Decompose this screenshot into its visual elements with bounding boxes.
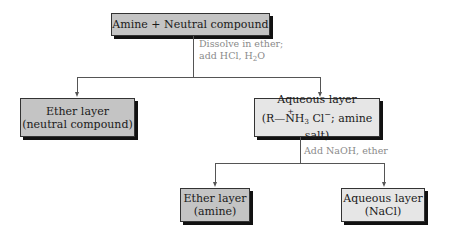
left2-line1: Ether layer <box>184 192 247 205</box>
step1-line2: add HCl, H2O <box>199 50 283 65</box>
root-box-amine-neutral: Amine + Neutral compound <box>111 13 270 36</box>
step2-note: Add NaOH, ether <box>304 145 388 157</box>
right2-line1: Aqueous layer <box>343 192 423 205</box>
connector-right1-down <box>300 137 301 163</box>
ether-layer-amine-box: Ether layer (amine) <box>180 188 250 222</box>
connector-root-down <box>193 36 194 77</box>
right2-line2: (NaCl) <box>365 205 402 218</box>
connector-left1-drop <box>77 77 78 93</box>
step1-note: Dissolve in ether; add HCl, H2O <box>199 38 283 65</box>
arrow-to-left1 <box>75 92 79 97</box>
connector-left2-drop <box>215 163 216 183</box>
root-label: Amine + Neutral compound <box>112 18 268 31</box>
arrow-to-left2 <box>213 182 217 187</box>
aqueous-layer-amine-salt-box: Aqueous layer (R—+NH3 Cl−; amine salt) <box>254 98 380 137</box>
left1-line1: Ether layer <box>46 105 109 118</box>
right1-formula: (R—+NH3 Cl−; amine salt) <box>255 108 379 142</box>
connector-split-1 <box>77 77 321 78</box>
aqueous-layer-nacl-box: Aqueous layer (NaCl) <box>341 188 425 222</box>
ether-layer-neutral-box: Ether layer (neutral compound) <box>20 98 135 137</box>
left2-line2: (amine) <box>194 205 237 218</box>
connector-right2-drop <box>384 163 385 183</box>
left1-line2: (neutral compound) <box>22 118 133 131</box>
arrow-to-right2 <box>382 182 386 187</box>
connector-split-2 <box>215 163 385 164</box>
step1-line1: Dissolve in ether; <box>199 38 283 50</box>
connector-right1-drop <box>320 77 321 93</box>
